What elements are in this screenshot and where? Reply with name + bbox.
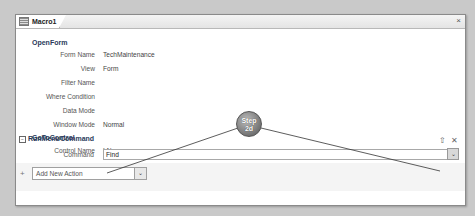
callout-line1: Step <box>237 117 261 125</box>
callout-line2: 2d <box>237 125 261 133</box>
step-callout-badge: Step 2d <box>236 111 262 137</box>
callout-lines <box>0 0 475 216</box>
